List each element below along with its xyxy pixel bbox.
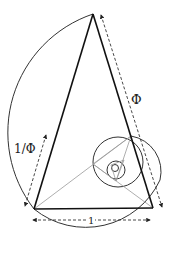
triangle-base	[34, 208, 153, 209]
phi-dimension-line	[101, 15, 162, 207]
spiral-arc-2	[34, 180, 160, 227]
measurements	[25, 15, 162, 220]
label-one: 1	[88, 215, 94, 226]
spiral-arc-1	[8, 14, 93, 209]
golden-triangle-diagram: Φ 1/Φ 1	[0, 0, 172, 256]
label-inverse-phi: 1/Φ	[14, 142, 36, 156]
triangle-left-side	[34, 14, 93, 209]
subdivision-lines	[34, 136, 153, 209]
label-phi: Φ	[131, 92, 142, 107]
spiral-arc-3	[131, 136, 161, 180]
golden-spiral	[8, 14, 161, 227]
triangle-right-side	[93, 14, 153, 208]
